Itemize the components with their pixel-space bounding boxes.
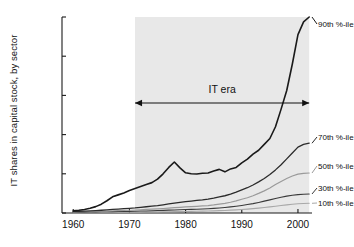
series-label-10th-ile: 10th %-ile <box>318 199 354 208</box>
series-label-50th-ile: 50th %-ile <box>318 162 354 171</box>
x-axis-tick-label: 1990 <box>231 219 253 230</box>
x-axis-tick-label: 2000 <box>287 219 309 230</box>
series-leader-line <box>312 166 317 173</box>
x-axis-tick-label: 1960 <box>62 219 84 230</box>
series-label-30th-ile: 30th %-ile <box>318 184 354 193</box>
x-axis-tick-label: 1970 <box>118 219 140 230</box>
series-label-70th-ile: 70th %-ile <box>318 133 354 142</box>
x-axis-tick-label: 1980 <box>174 219 196 230</box>
series-leader-line <box>312 17 317 24</box>
series-leader-line <box>312 137 317 143</box>
it-era-shaded-region <box>135 17 309 213</box>
series-label-90th-ile: 90th %-ile <box>318 20 354 29</box>
it-era-annotation-label: IT era <box>208 83 235 95</box>
series-leader-line <box>312 188 317 194</box>
y-axis-tick-labels: 00.040.080.120.160.2 <box>0 0 62 247</box>
